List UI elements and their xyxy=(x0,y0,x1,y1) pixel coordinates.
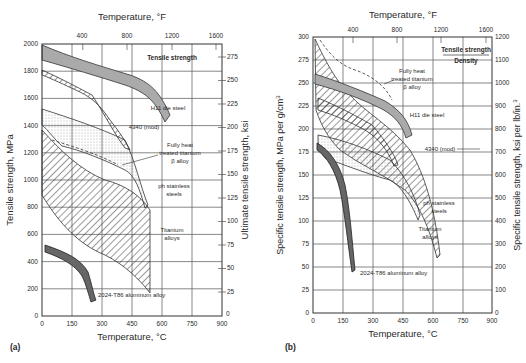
svg-text:250: 250 xyxy=(298,79,309,86)
svg-text:250: 250 xyxy=(227,76,238,83)
svg-text:0: 0 xyxy=(34,312,38,319)
svg-text:175: 175 xyxy=(227,147,238,154)
svg-text:200: 200 xyxy=(227,123,238,130)
svg-text:75: 75 xyxy=(302,240,310,247)
svg-text:75: 75 xyxy=(227,241,235,248)
svg-text:1000: 1000 xyxy=(495,79,510,86)
svg-text:800: 800 xyxy=(122,32,133,39)
svg-text:Fully heat: Fully heat xyxy=(399,68,425,74)
svg-text:450: 450 xyxy=(398,317,409,324)
panel-b: Temperature, °F 40080012001600 xyxy=(275,9,522,352)
svg-text:1600: 1600 xyxy=(479,26,494,33)
svg-text:Specific tensile strength, MPa: Specific tensile strength, MPa per g/cm3 xyxy=(275,95,285,255)
svg-text:800: 800 xyxy=(27,203,38,210)
label-ph-a: ph stainless steels xyxy=(158,183,190,197)
svg-text:1200: 1200 xyxy=(24,149,39,156)
svg-text:100: 100 xyxy=(298,217,309,224)
svg-text:1000: 1000 xyxy=(24,176,39,183)
bottom-axis-ticks-a: 0150300 450600750900 xyxy=(40,320,228,327)
svg-text:0: 0 xyxy=(311,317,315,324)
svg-text:25: 25 xyxy=(227,288,235,295)
svg-text:0: 0 xyxy=(226,310,230,317)
svg-text:400: 400 xyxy=(495,217,506,224)
left-axis-ticks-b: 300275250 225200175 150125100 7550250 xyxy=(298,33,309,316)
svg-text:1400: 1400 xyxy=(24,122,39,129)
leader-ti-beta-b xyxy=(384,80,394,84)
svg-text:alloys: alloys xyxy=(164,235,179,241)
legend-title-a: Tensile strength xyxy=(147,54,197,62)
svg-text:ph stainless: ph stainless xyxy=(158,183,190,189)
svg-text:300: 300 xyxy=(368,317,379,324)
legend-den-b: Density xyxy=(454,57,478,65)
label-al-a: 2024-T86 aluminum alloy xyxy=(98,292,165,298)
svg-text:alloys: alloys xyxy=(422,234,437,240)
svg-text:300: 300 xyxy=(97,320,108,327)
svg-text:225: 225 xyxy=(298,102,309,109)
svg-text:400: 400 xyxy=(348,26,359,33)
label-ti-beta-a: Fully heat treated titanium β alloy xyxy=(159,142,200,164)
svg-text:Specific tensile strength, ksi: Specific tensile strength, ksi per lb/in… xyxy=(512,99,522,251)
svg-text:1600: 1600 xyxy=(24,94,39,101)
bottom-axis-ticks-b: 0150300 450600750900 xyxy=(311,317,498,324)
top-axis-ticks-b: 40080012001600 xyxy=(348,26,494,33)
svg-text:600: 600 xyxy=(27,230,38,237)
right-axis-title-b: Specific tensile strength, ksi per lb/in… xyxy=(512,99,522,251)
svg-text:treated titanium: treated titanium xyxy=(391,76,432,82)
svg-text:200: 200 xyxy=(27,285,38,292)
svg-text:275: 275 xyxy=(298,56,309,63)
svg-text:900: 900 xyxy=(217,320,228,327)
svg-text:100: 100 xyxy=(495,286,506,293)
label-ti-beta-b: Fully heat treated titanium β alloy xyxy=(391,68,432,90)
svg-text:400: 400 xyxy=(77,32,88,39)
svg-text:β alloy: β alloy xyxy=(171,158,188,164)
svg-text:2000: 2000 xyxy=(24,40,39,47)
svg-text:1100: 1100 xyxy=(495,56,509,63)
figure: Temperature, °F 40080012001600 xyxy=(0,0,526,363)
svg-text:400: 400 xyxy=(27,258,38,265)
svg-text:0: 0 xyxy=(40,320,44,327)
label-ti-a: Titanium alloys xyxy=(161,227,184,241)
svg-text:β alloy: β alloy xyxy=(403,84,420,90)
svg-text:1200: 1200 xyxy=(434,26,449,33)
svg-text:300: 300 xyxy=(495,240,506,247)
top-axis-title-a: Temperature, °F xyxy=(98,11,166,22)
svg-text:Fully heat: Fully heat xyxy=(167,142,193,148)
label-4340-b: 4340 (mod) xyxy=(425,146,456,152)
svg-text:100: 100 xyxy=(227,217,238,224)
svg-text:750: 750 xyxy=(187,320,198,327)
svg-text:1200: 1200 xyxy=(495,33,510,40)
svg-text:300: 300 xyxy=(298,33,309,40)
svg-text:600: 600 xyxy=(495,171,506,178)
left-axis-ticks-a: 200018001600 140012001000 800600400 2000 xyxy=(24,40,39,319)
svg-text:50: 50 xyxy=(227,264,235,271)
svg-text:1600: 1600 xyxy=(209,32,224,39)
bottom-axis-title-a: Temperature, °C xyxy=(97,331,166,342)
svg-text:150: 150 xyxy=(338,317,349,324)
right-axis-ticks-b: 120011001000 900800700 600500400 3002001… xyxy=(495,33,510,316)
svg-text:125: 125 xyxy=(298,194,309,201)
label-h11-a: H11 die steel xyxy=(151,105,186,111)
bottom-axis-title-b: Temperature, °C xyxy=(368,328,437,339)
top-axis-title-b: Temperature, °F xyxy=(369,9,437,20)
label-al-b: 2024-T86 aluminum alloy xyxy=(360,270,427,276)
svg-text:275: 275 xyxy=(227,53,238,60)
svg-text:treated titanium: treated titanium xyxy=(159,150,200,156)
svg-text:150: 150 xyxy=(67,320,78,327)
svg-text:Titanium: Titanium xyxy=(419,226,442,232)
svg-text:125: 125 xyxy=(227,194,238,201)
svg-text:500: 500 xyxy=(495,194,506,201)
svg-text:1200: 1200 xyxy=(165,32,180,39)
svg-text:steels: steels xyxy=(166,191,182,197)
panel-label-b: (b) xyxy=(285,342,296,352)
top-axis-ticks-a: 40080012001600 xyxy=(77,32,224,39)
svg-text:900: 900 xyxy=(487,317,498,324)
svg-text:175: 175 xyxy=(298,148,309,155)
svg-text:600: 600 xyxy=(428,317,439,324)
svg-text:450: 450 xyxy=(127,320,138,327)
label-h11-b: H11 die steel xyxy=(410,112,445,118)
series-al-a xyxy=(45,245,96,302)
svg-text:Titanium: Titanium xyxy=(161,227,184,233)
svg-text:1800: 1800 xyxy=(24,67,39,74)
svg-text:900: 900 xyxy=(495,102,506,109)
right-axis-ticks-a: 275250225 200175150 12510075 50250 xyxy=(226,53,238,317)
